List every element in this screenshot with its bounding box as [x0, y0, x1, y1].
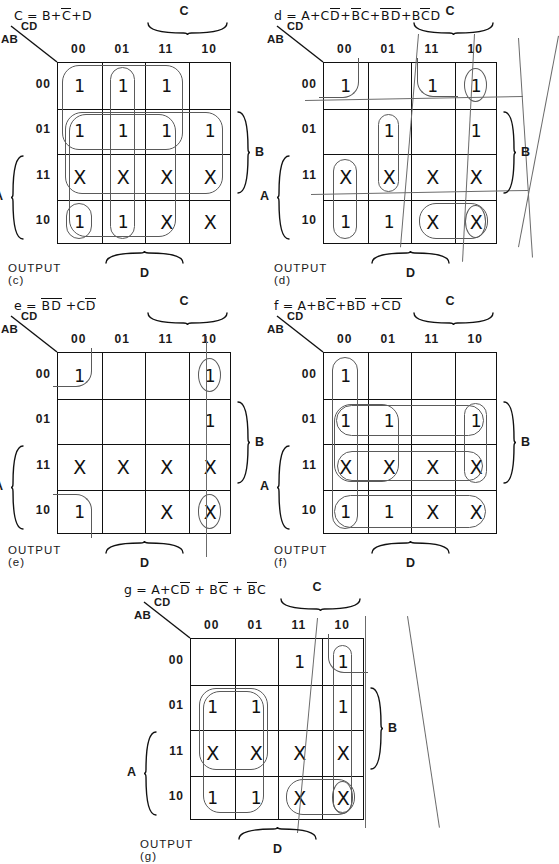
axis-label-ab: AB — [267, 33, 284, 45]
brace-label-c-f: C — [446, 294, 455, 308]
kmap-cell: X — [189, 200, 233, 246]
kmap-cell — [145, 399, 189, 445]
kmap-cell: 1 — [455, 109, 499, 155]
kmap-cell: X — [411, 200, 455, 246]
col-header-11-e: 11 — [144, 332, 188, 346]
kmap-cell: X — [455, 490, 499, 536]
row-header-11-g: 11 — [158, 744, 184, 758]
brace-label-a-e: A — [0, 479, 3, 493]
brace-c-g — [280, 598, 361, 612]
kmap-cell — [102, 353, 146, 399]
col-header-00-g: 00 — [190, 618, 234, 632]
row-header-01-g: 01 — [158, 698, 184, 712]
kmap-cell — [411, 109, 455, 155]
equation-term: B — [351, 8, 361, 22]
kmap-cell: 1 — [455, 399, 499, 445]
kmap-cell: 1 — [189, 399, 233, 445]
kmap-cell — [411, 353, 455, 399]
kmap-cell: 1 — [324, 490, 368, 536]
equation-term: D — [330, 8, 341, 22]
kmap-cell: 1 — [322, 639, 366, 685]
kmap-cell: X — [102, 154, 146, 200]
kmap-cell: 1 — [368, 490, 412, 536]
kmap-cell: 1 — [145, 63, 189, 109]
brace-d-d — [371, 250, 450, 264]
equation-term: C — [218, 582, 228, 596]
equation-term: B — [380, 8, 390, 22]
col-header-10-c: 10 — [188, 42, 232, 56]
equation-term: + B — [190, 582, 218, 597]
brace-a-e — [10, 445, 24, 530]
equation-term: + — [228, 582, 247, 597]
row-header-10-c: 10 — [25, 213, 51, 227]
brace-label-c-e: C — [180, 294, 189, 308]
kmap-cell: 1 — [235, 776, 279, 822]
equation-term: + — [366, 298, 381, 313]
kmap-cell: X — [102, 444, 146, 490]
output-label-f: OUTPUT (f) — [274, 544, 327, 568]
col-header-01-c: 01 — [101, 42, 145, 56]
brace-a-d — [276, 155, 290, 240]
kmap-cell: 1 — [102, 200, 146, 246]
col-header-10-e: 10 — [188, 332, 232, 346]
equation-term: C — [61, 8, 71, 22]
kmap-cell: 1 — [58, 109, 102, 155]
equation-term: C+ — [361, 8, 381, 23]
kmap-cell: X — [189, 444, 233, 490]
row-header-11-e: 11 — [25, 458, 51, 472]
col-header-01-e: 01 — [101, 332, 145, 346]
kmap-cell: X — [145, 444, 189, 490]
kmap-cell: 1 — [368, 200, 412, 246]
equation-term: +D — [71, 8, 92, 23]
kmap-cell: 1 — [102, 109, 146, 155]
equation-g: g = A+CD + BC + BC — [124, 582, 266, 597]
equation-term: C — [381, 298, 391, 312]
row-header-01-e: 01 — [25, 412, 51, 426]
kmap-cell: X — [235, 730, 279, 776]
row-header-11-d: 11 — [291, 168, 317, 182]
brace-b-e — [237, 401, 251, 484]
kmap-cell: X — [58, 444, 102, 490]
brace-label-a-g: A — [127, 765, 136, 779]
brace-a-g — [143, 731, 157, 816]
equation-term: D — [355, 298, 366, 312]
brace-b-d — [503, 111, 517, 194]
col-header-10-f: 10 — [454, 332, 498, 346]
brace-d-c — [105, 250, 184, 264]
kmap-cell: X — [455, 200, 499, 246]
group-strike-line — [407, 616, 440, 828]
kmap-cell: 1 — [58, 200, 102, 246]
row-header-11-f: 11 — [291, 458, 317, 472]
brace-a-c — [10, 155, 24, 240]
equation-term: D — [391, 298, 402, 312]
col-header-01-d: 01 — [367, 42, 411, 56]
col-header-00-c: 00 — [57, 42, 101, 56]
brace-label-d-d: D — [406, 266, 415, 280]
col-header-00-e: 00 — [57, 332, 101, 346]
kmap-cell: X — [322, 730, 366, 776]
output-label-g: OUTPUT (g) — [140, 838, 193, 862]
brace-label-c-g: C — [313, 580, 322, 594]
axis-label-cd: CD — [21, 20, 38, 32]
row-header-10-g: 10 — [158, 789, 184, 803]
row-header-10-d: 10 — [291, 213, 317, 227]
kmap-cell: X — [145, 200, 189, 246]
brace-label-a-c: A — [0, 189, 3, 203]
col-header-00-d: 00 — [323, 42, 367, 56]
kmap-cell: 1 — [324, 353, 368, 399]
kmap-cell: X — [189, 154, 233, 200]
kmap-cell — [102, 490, 146, 536]
brace-c-e — [147, 312, 228, 326]
brace-label-d-g: D — [273, 842, 282, 856]
kmap-cell — [278, 685, 322, 731]
col-header-10-d: 10 — [454, 42, 498, 56]
kmap-cell: X — [411, 444, 455, 490]
col-header-01-f: 01 — [367, 332, 411, 346]
equation-term: +B — [401, 8, 420, 23]
kmap-cell: X — [455, 154, 499, 200]
brace-label-b-f: B — [521, 435, 530, 449]
brace-b-g — [370, 687, 384, 770]
brace-b-c — [237, 111, 251, 194]
row-header-00-g: 00 — [158, 653, 184, 667]
kmap-grid-f: 1111XXXX11XX — [323, 352, 497, 534]
